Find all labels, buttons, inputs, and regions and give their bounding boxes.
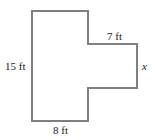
label-right: x (141, 60, 147, 72)
label-top-right: 7 ft (107, 30, 122, 42)
label-left: 15 ft (5, 60, 25, 72)
shape-outline (32, 11, 137, 121)
label-bottom: 8 ft (53, 124, 68, 136)
diagram-canvas: 15 ft 7 ft x 8 ft (0, 0, 155, 140)
